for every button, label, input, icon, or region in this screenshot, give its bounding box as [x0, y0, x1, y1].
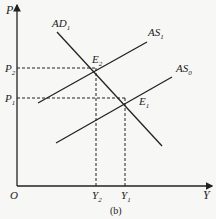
y-axis-label: P	[5, 3, 14, 17]
ad1-label: AD1	[51, 17, 70, 32]
as1-curve	[38, 42, 147, 103]
origin-label: O	[10, 189, 18, 201]
p1-label: P1	[4, 92, 15, 107]
x-axis-label: Y	[203, 188, 211, 202]
ad-as-diagram: P Y O P2 P1 Y2 Y1 AD1 AS1 AS0 E2 E1 (b)	[0, 0, 216, 219]
as1-label: AS1	[147, 26, 164, 41]
y1-label: Y1	[121, 189, 131, 204]
as0-label: AS0	[175, 62, 192, 77]
e1-label: E1	[138, 95, 149, 110]
e2-label: E2	[91, 53, 103, 68]
p2-label: P2	[4, 62, 16, 77]
as0-curve	[56, 77, 172, 143]
ad1-curve	[57, 32, 162, 146]
figure-caption: (b)	[110, 205, 122, 217]
y2-label: Y2	[92, 189, 102, 204]
